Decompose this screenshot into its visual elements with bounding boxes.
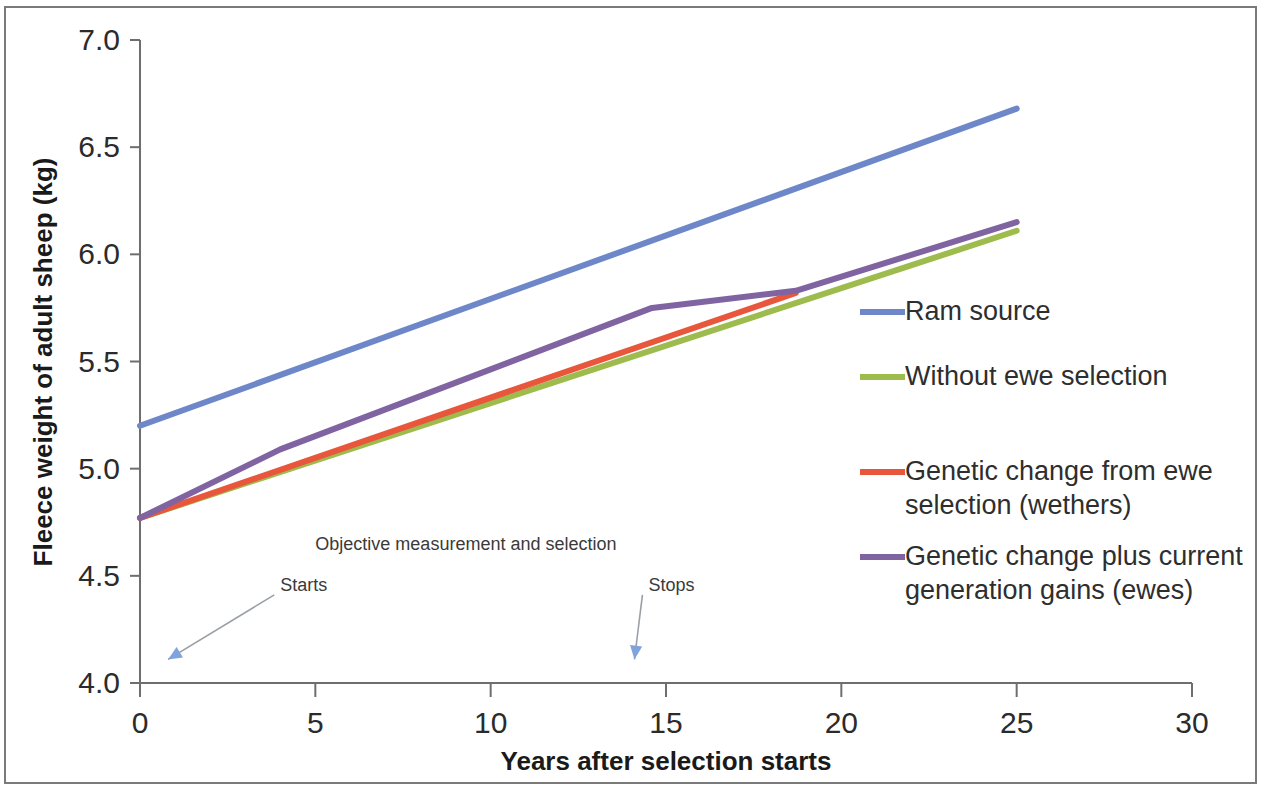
y-axis-ticks: 4.04.55.05.56.06.57.0 [78, 23, 140, 699]
y-tick-label: 5.5 [78, 345, 120, 378]
x-tick-label: 10 [474, 706, 507, 739]
y-tick-label: 4.5 [78, 559, 120, 592]
annotation-arrow-line [168, 595, 274, 660]
y-tick-label: 6.0 [78, 237, 120, 270]
x-tick-label: 15 [649, 706, 682, 739]
x-tick-label: 30 [1175, 706, 1208, 739]
line-chart: 4.04.55.05.56.06.57.0 051015202530 Years… [0, 0, 1263, 791]
annotation-label: Objective measurement and selection [315, 534, 616, 554]
y-tick-label: 4.0 [78, 666, 120, 699]
series-line [140, 293, 796, 518]
annotation-label: Starts [280, 575, 327, 595]
x-tick-label: 20 [825, 706, 858, 739]
y-axis-title: Fleece weight of adult sheep (kg) [28, 158, 58, 567]
y-tick-label: 6.5 [78, 130, 120, 163]
legend-label[interactable]: Genetic change plus currentgeneration ga… [905, 541, 1243, 605]
annotation-label: Stops [648, 575, 694, 595]
legend-label[interactable]: Without ewe selection [905, 361, 1168, 391]
legend-label[interactable]: Genetic change from eweselection (wether… [905, 456, 1213, 520]
x-tick-label: 5 [307, 706, 324, 739]
chart-figure: 4.04.55.05.56.06.57.0 051015202530 Years… [0, 0, 1263, 791]
legend-label[interactable]: Ram source [905, 296, 1051, 326]
x-tick-label: 25 [1000, 706, 1033, 739]
chart-legend: Ram sourceWithout ewe selectionGenetic c… [860, 296, 1243, 605]
x-axis-ticks: 051015202530 [132, 683, 1209, 739]
chart-annotations: Objective measurement and selectionStart… [168, 534, 694, 659]
x-axis-title: Years after selection starts [501, 746, 832, 776]
annotation-arrow-head [168, 647, 183, 659]
annotation-arrow-head [630, 645, 642, 659]
x-tick-label: 0 [132, 706, 149, 739]
y-tick-label: 7.0 [78, 23, 120, 56]
y-tick-label: 5.0 [78, 452, 120, 485]
